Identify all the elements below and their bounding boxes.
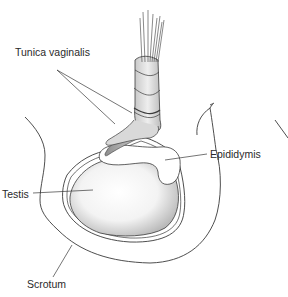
label-tunica-vaginalis: Tunica vaginalis (15, 46, 90, 58)
scrotum-far-edge (275, 120, 288, 138)
leader-tunica-1 (57, 70, 132, 113)
label-epididymis: Epididymis (210, 148, 261, 160)
leader-scrotum (53, 245, 72, 277)
spermatic-cord (135, 56, 161, 130)
leader-tunica-2 (57, 70, 115, 124)
label-scrotum: Scrotum (27, 278, 66, 290)
scrotum-right-edge (197, 108, 210, 135)
label-testis: Testis (2, 188, 29, 200)
cord-fibers (140, 10, 164, 62)
